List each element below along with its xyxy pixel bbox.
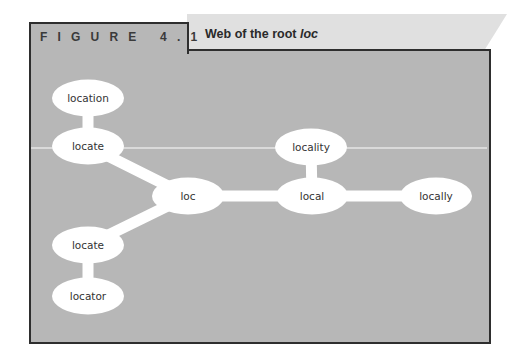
node-locate_top: locate <box>52 128 124 165</box>
word-web-diagram: locationlocateloclocalitylocallocallyloc… <box>0 0 526 361</box>
node-label: location <box>67 92 109 104</box>
connector-group <box>88 98 436 296</box>
node-local: local <box>276 178 348 215</box>
node-locator: locator <box>52 278 124 315</box>
node-locality: locality <box>275 129 347 166</box>
node-label: loc <box>180 190 195 202</box>
node-locally: locally <box>400 178 472 215</box>
node-label: locally <box>419 190 453 202</box>
node-loc: loc <box>152 178 224 215</box>
node-label: locate <box>72 140 104 152</box>
node-label: locate <box>72 239 104 251</box>
node-label: local <box>300 190 324 202</box>
node-label: locality <box>292 141 330 153</box>
node-label: locator <box>70 290 107 302</box>
node-location: location <box>52 80 124 117</box>
node-locate_bottom: locate <box>52 227 124 264</box>
